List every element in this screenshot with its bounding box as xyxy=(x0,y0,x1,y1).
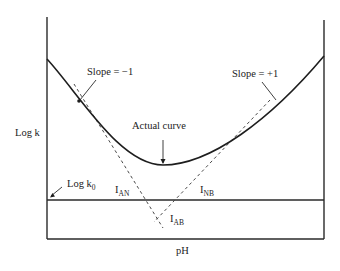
i-nb-label: INB xyxy=(200,184,214,198)
log-k0-label: Log k0 xyxy=(67,178,96,192)
base-asymptote-dashed xyxy=(154,100,270,222)
actual-curve-label: Actual curve xyxy=(132,120,186,131)
slope-left-marker xyxy=(77,99,81,103)
y-axis-label: Log k xyxy=(15,127,41,138)
x-axis-label: pH xyxy=(176,245,189,256)
slope-left-label: Slope = −1 xyxy=(87,66,133,77)
slope-left-pointer xyxy=(80,80,96,100)
i-ab-label: IAB xyxy=(170,213,184,227)
i-an-label: IAN xyxy=(115,184,130,198)
acid-asymptote-dashed xyxy=(74,84,163,228)
actual-curve-arrowhead xyxy=(161,159,166,164)
log-k-vs-ph-diagram: Log k pH Slope = −1 Slope = +1 Actual cu… xyxy=(0,0,340,271)
slope-right-pointer xyxy=(262,82,276,100)
slope-right-label: Slope = +1 xyxy=(232,68,278,79)
diagram-canvas: Log k pH Slope = −1 Slope = +1 Actual cu… xyxy=(0,0,340,271)
